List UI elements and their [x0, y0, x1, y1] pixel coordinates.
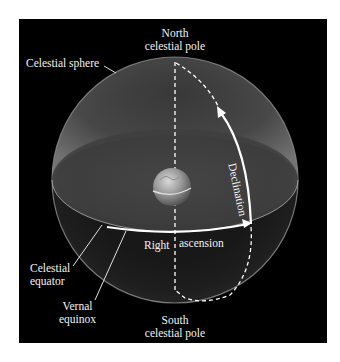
right-ascension-label-part2: ascension [179, 237, 224, 250]
north-pole-label-line2: celestial pole [140, 40, 210, 53]
celestial-sphere-label: Celestial sphere [26, 57, 99, 70]
south-pole-label-line2: celestial pole [140, 327, 210, 340]
earth-globe-icon [153, 168, 191, 206]
celestial-sphere-pointer [104, 66, 116, 73]
north-pole-label-line1: North [140, 27, 210, 40]
south-pole-label-line1: South [140, 314, 210, 327]
celestial-equator-label-line2: equator [30, 275, 70, 288]
vernal-equinox-label: Vernal equinox [55, 300, 100, 326]
vernal-equinox-label-line1: Vernal [55, 300, 100, 313]
celestial-sphere-diagram [0, 0, 340, 362]
vernal-equinox-label-line2: equinox [55, 313, 100, 326]
south-celestial-pole-label: South celestial pole [140, 314, 210, 340]
right-ascension-label-part1: Right [144, 239, 170, 252]
north-celestial-pole-label: North celestial pole [140, 27, 210, 53]
celestial-equator-label: Celestial equator [30, 262, 70, 288]
celestial-equator-label-line1: Celestial [30, 262, 70, 275]
